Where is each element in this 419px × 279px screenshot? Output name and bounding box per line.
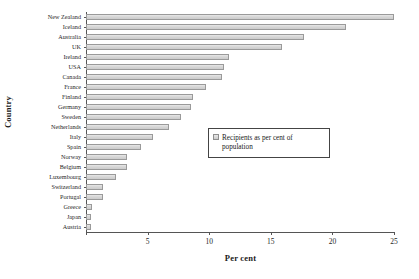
bar [86,174,116,180]
y-axis-tick-label: USA [69,64,81,70]
bar-row: Greece [86,204,394,210]
bar-row: Iceland [86,24,394,30]
bar-row: Belgium [86,164,394,170]
bar [86,54,229,60]
y-axis-tick-label: New Zealand [48,14,81,20]
y-axis-tick-label: Spain [67,144,81,150]
bar [86,184,103,190]
y-axis-tick-label: Germany [58,104,81,110]
y-axis-tick-label: Canada [62,74,81,80]
bar [86,144,141,150]
bar-row: New Zealand [86,14,394,20]
bar [86,14,394,20]
bar [86,114,181,120]
bar-row: Australia [86,34,394,40]
x-axis-tick [394,232,395,235]
y-axis-tick-label: Finland [62,94,81,100]
bar-row: Austria [86,224,394,230]
bar [86,24,346,30]
bar [86,204,92,210]
x-axis-tick-label: 10 [205,237,213,246]
bar [86,224,91,230]
bar-row: Sweden [86,114,394,120]
x-axis-tick [271,232,272,235]
bar-row: Portugal [86,194,394,200]
y-axis-tick-label: Belgium [60,164,81,170]
x-axis-line [86,232,395,233]
bar-row: Ireland [86,54,394,60]
y-axis-title: Country [0,0,16,224]
bar [86,84,206,90]
y-axis-tick-label: Luxembourg [49,174,81,180]
bar [86,44,282,50]
x-axis-tick-label: 15 [267,237,275,246]
x-axis-title: Per cent [86,253,395,263]
y-axis-tick-label: UK [72,44,81,50]
plot-area: New ZealandIcelandAustraliaUKIrelandUSAC… [86,12,394,232]
x-axis-tick-label: 25 [390,237,398,246]
bar-row: Germany [86,104,394,110]
bar-row: Finland [86,94,394,100]
y-axis-tick-label: France [64,84,81,90]
bar [86,124,169,130]
y-axis-tick-label: Ireland [63,54,81,60]
y-axis-tick-label: Japan [67,214,81,220]
bar [86,194,103,200]
x-axis-tick [209,232,210,235]
x-axis-tick-label: 20 [329,237,337,246]
bar-row: USA [86,64,394,70]
bar-chart: Country New ZealandIcelandAustraliaUKIre… [0,0,419,279]
bar-row: Luxembourg [86,174,394,180]
y-axis-tick-label: Austria [63,224,81,230]
bar [86,34,304,40]
y-axis-tick-label: Iceland [63,24,81,30]
bar [86,94,193,100]
y-axis-tick-label: Portugal [60,194,81,200]
chart-legend: Recipients as per cent of population [208,128,330,158]
y-axis-tick-label: Netherlands [51,124,81,130]
y-axis-title-text: Country [3,96,13,128]
bar [86,134,153,140]
bar-row: Canada [86,74,394,80]
x-axis-tick-label: 5 [146,237,150,246]
bar [86,154,127,160]
y-axis-tick-label: Greece [63,204,81,210]
x-axis-tick [332,232,333,235]
bar [86,214,91,220]
bar-row: Switzerland [86,184,394,190]
x-axis-tick [148,232,149,235]
bar-row: Japan [86,214,394,220]
bar-row: UK [86,44,394,50]
x-axis-tick [86,232,87,235]
bar [86,74,222,80]
legend-label: Recipients as per cent of population [222,134,325,152]
bar [86,164,127,170]
bar [86,104,191,110]
y-axis-tick-label: Australia [58,34,81,40]
y-axis-tick-label: Norway [61,154,81,160]
y-axis-tick-label: Sweden [61,114,81,120]
bar-row: France [86,84,394,90]
y-axis-tick-label: Italy [70,134,81,140]
bar [86,64,224,70]
y-axis-tick-label: Switzerland [51,184,81,190]
legend-swatch-icon [213,134,219,140]
